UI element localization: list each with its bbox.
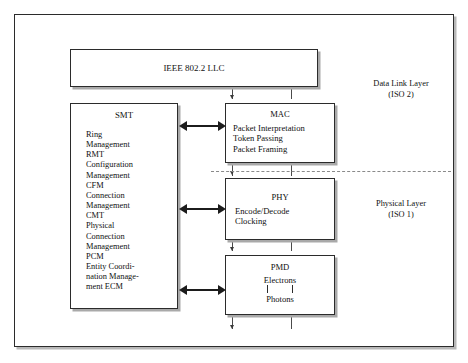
box-mac[interactable]: MAC Packet Interpretation Token Passing … — [225, 103, 335, 163]
mac-line: Packet Interpretation — [233, 123, 334, 133]
arrowhead-llc-to-mac-down — [230, 95, 234, 99]
smt-line: nation Manage- — [86, 272, 177, 282]
diagram-canvas: IEEE 802.2 LLC SMT Ring Management RMT C… — [0, 0, 468, 363]
box-phy-title: PHY — [226, 192, 334, 203]
arrow-smt-to-mac — [179, 121, 226, 131]
phy-line: Clocking — [235, 216, 334, 226]
box-llc-title: IEEE 802.2 LLC — [163, 63, 224, 74]
box-smt-lines: Ring Management RMT Configuration Manage… — [71, 130, 177, 293]
label-data-link-line1: Data Link Layer — [349, 79, 453, 90]
smt-line: Management — [86, 140, 177, 150]
smt-line: Entity Coordi- — [86, 262, 177, 272]
arrowhead-pmd-to-medium-down — [230, 325, 234, 329]
smt-line: ment ECM — [86, 282, 177, 292]
label-physical-layer: Physical Layer (ISO 1) — [349, 199, 453, 220]
box-mac-lines: Packet Interpretation Token Passing Pack… — [226, 123, 334, 154]
box-ieee-802-2-llc[interactable]: IEEE 802.2 LLC — [70, 49, 318, 87]
pmd-line-electrons: Electrons — [226, 275, 334, 285]
pmd-tick-left — [267, 285, 268, 293]
diagram-outer-frame: IEEE 802.2 LLC SMT Ring Management RMT C… — [14, 14, 454, 347]
label-physical-line1: Physical Layer — [349, 199, 453, 210]
arrowhead-phy-to-pmd-down — [230, 247, 234, 251]
box-pmd[interactable]: PMD Electrons Photons — [225, 255, 335, 315]
box-pmd-title: PMD — [226, 262, 334, 273]
smt-line: PCM — [86, 252, 177, 262]
phy-line: Encode/Decode — [235, 206, 334, 216]
arrow-shaft — [185, 208, 220, 210]
pmd-line-photons: Photons — [226, 294, 334, 304]
arrow-smt-to-pmd — [179, 285, 226, 295]
smt-line: CFM — [86, 181, 177, 191]
box-smt-title: SMT — [71, 110, 177, 121]
arrow-smt-to-phy — [179, 204, 226, 214]
pmd-boundary-ticks — [226, 285, 334, 294]
box-phy[interactable]: PHY Encode/Decode Clocking — [225, 178, 335, 240]
label-data-link-line2: (ISO 2) — [349, 90, 453, 101]
mac-line: Packet Framing — [233, 144, 334, 154]
mac-line: Token Passing — [233, 133, 334, 143]
label-physical-line2: (ISO 1) — [349, 210, 453, 221]
pmd-tick-right — [292, 285, 293, 293]
smt-line: Ring — [86, 130, 177, 140]
smt-line: RMT — [86, 150, 177, 160]
smt-line: Connection — [86, 191, 177, 201]
smt-line: CMT — [86, 211, 177, 221]
arrowhead-right — [218, 204, 226, 214]
box-phy-lines: Encode/Decode Clocking — [226, 206, 334, 227]
arrowhead-right — [218, 121, 226, 131]
arrowhead-right — [218, 285, 226, 295]
box-pmd-lines: Electrons Photons — [226, 275, 334, 305]
smt-line: Management — [86, 201, 177, 211]
layer-divider-dashed-line — [211, 171, 451, 172]
smt-line: Management — [86, 242, 177, 252]
label-data-link-layer: Data Link Layer (ISO 2) — [349, 79, 453, 100]
box-smt[interactable]: SMT Ring Management RMT Configuration Ma… — [70, 103, 178, 309]
smt-line: Management — [86, 171, 177, 181]
smt-line: Connection — [86, 232, 177, 242]
box-mac-title: MAC — [226, 109, 334, 120]
arrow-shaft — [185, 289, 220, 291]
smt-line: Physical — [86, 221, 177, 231]
arrow-shaft — [185, 125, 220, 127]
smt-line: Configuration — [86, 160, 177, 170]
